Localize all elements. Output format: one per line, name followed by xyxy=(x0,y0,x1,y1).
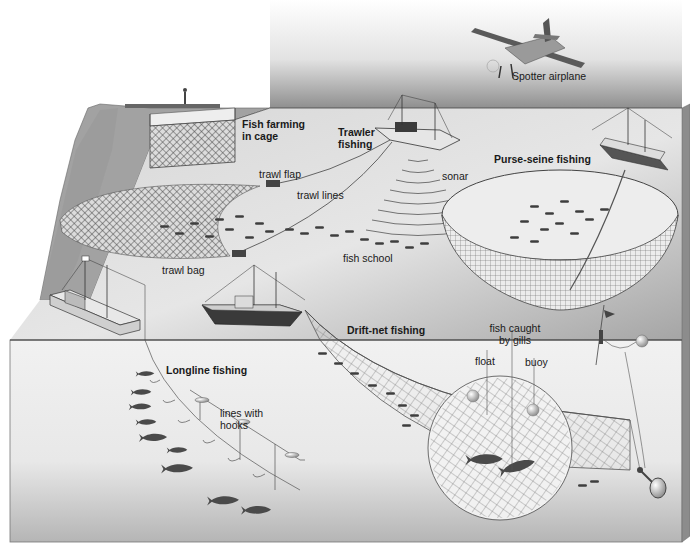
label-fish-school: fish school xyxy=(343,252,393,264)
label-trawl-flap: trawl flap xyxy=(259,168,301,180)
trawl-flap xyxy=(266,180,280,187)
label-buoy: buoy xyxy=(525,356,548,368)
label-sonar: sonar xyxy=(442,170,468,182)
label-trawl-lines: trawl lines xyxy=(297,189,344,201)
label-lines-with-hooks: lines with hooks xyxy=(220,407,264,431)
label-drift-net: Drift-net fishing xyxy=(347,324,425,336)
label-fish-caught-by-gills: fish caught by gills xyxy=(487,322,543,346)
fishing-methods-diagram: Spotter airplane Fish farming in cage Tr… xyxy=(0,0,690,550)
buoy-ball xyxy=(527,404,539,416)
label-trawler-fishing: Trawler fishing xyxy=(338,126,388,150)
label-spotter-airplane: Spotter airplane xyxy=(512,70,586,82)
label-float: float xyxy=(475,355,495,367)
label-purse-seine: Purse-seine fishing xyxy=(494,153,591,165)
label-trawl-bag: trawl bag xyxy=(162,264,205,276)
float-ball xyxy=(467,390,479,402)
diagram-canvas xyxy=(0,0,690,550)
label-fish-farming: Fish farming in cage xyxy=(242,118,310,142)
magnified-net-view xyxy=(428,376,572,520)
sky xyxy=(270,0,682,108)
label-longline: Longline fishing xyxy=(166,364,247,376)
